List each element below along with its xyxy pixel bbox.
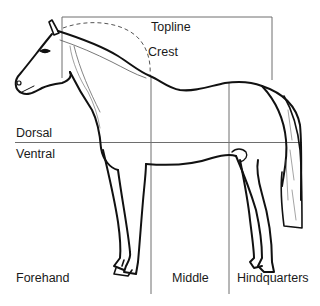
label-ventral: Ventral — [16, 148, 55, 161]
label-crest: Crest — [148, 46, 178, 59]
label-forehand: Forehand — [16, 272, 70, 285]
throat-chest-outline — [70, 72, 118, 170]
ear — [49, 20, 59, 35]
mouth — [22, 86, 34, 92]
label-topline: Topline — [151, 21, 191, 34]
label-middle: Middle — [172, 272, 209, 285]
eye — [40, 50, 50, 53]
nostril — [17, 81, 21, 85]
tail-texture — [286, 110, 296, 220]
thigh-outline — [262, 86, 287, 186]
front-leg-rear — [118, 164, 146, 274]
horse-regions-diagram: Topline Crest Dorsal Ventral Forehand Mi… — [0, 0, 320, 306]
label-hindquarters: Hindquarters — [237, 272, 309, 285]
label-dorsal: Dorsal — [16, 127, 52, 140]
belly-outline — [146, 155, 236, 165]
